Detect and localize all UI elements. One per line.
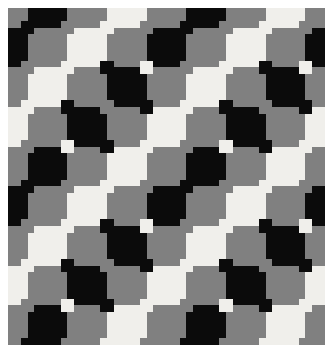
pattern-frame xyxy=(8,8,325,345)
pattern-image: Geometric Cross Tiling Pattern xyxy=(0,0,333,353)
tiling-pattern-canvas xyxy=(8,8,325,345)
